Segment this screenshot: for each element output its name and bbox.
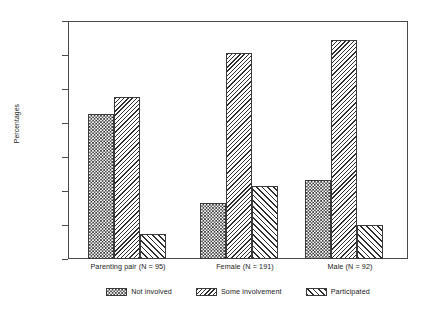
bar-group-parenting-pair: [88, 21, 178, 259]
y-axis-title: Percentages: [13, 92, 20, 156]
bars-layer: [68, 21, 408, 259]
bar-participated: [140, 234, 166, 259]
legend-label: Not involved: [131, 288, 172, 296]
bar-group-female: [200, 21, 290, 259]
legend-label: Some involvement: [221, 288, 282, 296]
legend-item-participated: Participated: [306, 288, 370, 296]
bar-some-involvement: [226, 53, 252, 259]
legend-label: Participated: [331, 288, 370, 296]
legend-swatch-forward-hatch-icon: [306, 288, 327, 296]
y-axis: Percentages 70 60 50 40 30 20 10 0: [0, 0, 68, 320]
legend-item-some-involvement: Some involvement: [196, 288, 282, 296]
x-tick-label-male: Male (N = 92): [285, 262, 415, 271]
x-tick-label-parenting-pair: Parenting pair (N = 95): [63, 262, 193, 271]
bar-participated: [357, 225, 383, 259]
page-edge: [0, 305, 425, 320]
legend-swatch-checkerboard-icon: [106, 288, 127, 296]
bar-some-involvement: [331, 40, 357, 259]
legend: Not involved Some involvement Participat…: [68, 283, 408, 300]
bar-not-involved: [305, 180, 331, 259]
legend-swatch-back-hatch-icon: [196, 288, 217, 296]
x-axis-labels: Parenting pair (N = 95) Female (N = 191)…: [68, 262, 408, 276]
legend-item-not-involved: Not involved: [106, 288, 172, 296]
bar-not-involved: [88, 114, 114, 259]
bar-chart: Percentages 70 60 50 40 30 20 10 0: [0, 0, 425, 320]
bar-group-male: [305, 21, 395, 259]
bar-not-involved: [200, 203, 226, 259]
bar-participated: [252, 186, 278, 259]
y-tick-mark: [62, 259, 68, 260]
bar-some-involvement: [114, 97, 140, 259]
